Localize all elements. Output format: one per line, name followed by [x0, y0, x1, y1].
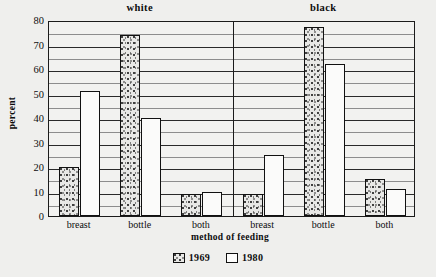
- panel-title-white: white: [48, 2, 232, 13]
- panel-title-black: black: [232, 2, 416, 13]
- legend-item-1980: 1980: [226, 252, 263, 263]
- gridline-minor: [49, 83, 414, 84]
- bar-white-bottle-1969: [120, 35, 140, 216]
- y-tick-label: 70: [18, 41, 44, 51]
- x-tick-label: bottle: [109, 219, 170, 230]
- bar-white-both-1969: [181, 194, 201, 216]
- x-tick-label: both: [170, 219, 231, 230]
- x-tick-label: breast: [232, 219, 293, 230]
- legend-label: 1969: [189, 252, 210, 263]
- x-axis-label: method of feeding: [0, 232, 436, 242]
- gridline-minor: [49, 157, 414, 158]
- gridline-minor: [49, 108, 414, 109]
- bar-black-both-1980: [386, 189, 406, 216]
- gridline-major: [49, 194, 414, 195]
- stippled-swatch: [173, 253, 185, 263]
- x-tick-label: bottle: [293, 219, 354, 230]
- gridline-minor: [49, 34, 414, 35]
- panel-divider: [233, 22, 234, 216]
- legend-item-1969: 1969: [173, 252, 210, 263]
- y-tick-label: 0: [18, 212, 44, 222]
- bar-black-breast-1980: [264, 155, 284, 216]
- y-tick-label: 20: [18, 163, 44, 173]
- gridline-major: [49, 145, 414, 146]
- y-tick-label: 10: [18, 188, 44, 198]
- x-tick-label: both: [354, 219, 415, 230]
- bar-white-bottle-1980: [141, 118, 161, 216]
- gridline-major: [49, 169, 414, 170]
- gridline-major: [49, 96, 414, 97]
- bar-black-breast-1969: [243, 194, 263, 216]
- bar-black-bottle-1980: [325, 64, 345, 216]
- y-tick-label: 40: [18, 114, 44, 124]
- bar-chart-figure: percent 01020304050607080 whiteblack bre…: [0, 0, 436, 277]
- bar-white-breast-1980: [80, 91, 100, 216]
- gridline-minor: [49, 132, 414, 133]
- gridline-minor: [49, 59, 414, 60]
- y-tick-label: 80: [18, 16, 44, 26]
- x-tick-label: breast: [48, 219, 109, 230]
- y-tick-label: 60: [18, 65, 44, 75]
- bar-black-both-1969: [365, 179, 385, 216]
- plot-area: [48, 21, 415, 217]
- legend: 19691980: [0, 252, 436, 263]
- gridline-major: [49, 47, 414, 48]
- white-swatch: [226, 253, 238, 263]
- bar-black-bottle-1969: [304, 27, 324, 216]
- y-tick-label: 50: [18, 90, 44, 100]
- bar-white-both-1980: [202, 192, 222, 217]
- legend-label: 1980: [242, 252, 263, 263]
- bar-white-breast-1969: [59, 167, 79, 216]
- gridline-major: [49, 71, 414, 72]
- gridline-major: [49, 120, 414, 121]
- gridline-minor: [49, 181, 414, 182]
- gridline-minor: [49, 206, 414, 207]
- y-tick-label: 30: [18, 139, 44, 149]
